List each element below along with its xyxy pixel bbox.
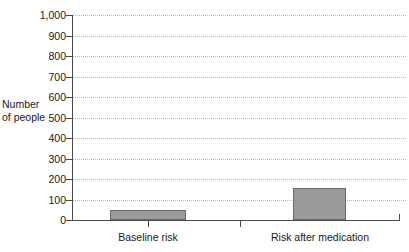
xtick-mark-baseline-risk xyxy=(148,221,149,227)
xtick-mark-axis-end xyxy=(399,214,400,221)
gridline-300 xyxy=(73,159,406,160)
bar-baseline-risk xyxy=(110,210,186,220)
xtick-mark-divider xyxy=(240,221,241,227)
ytick-label-300: 300 xyxy=(6,154,73,165)
ytick-label-1000: 1,000 xyxy=(6,10,73,21)
ytick-label-800: 800 xyxy=(6,51,73,62)
y-axis-line xyxy=(72,15,73,221)
gridline-200 xyxy=(73,179,406,180)
gridline-900 xyxy=(73,36,406,37)
ytick-label-0: 0 xyxy=(6,215,73,226)
ytick-label-200: 200 xyxy=(6,174,73,185)
gridline-500 xyxy=(73,118,406,119)
gridline-600 xyxy=(73,97,406,98)
ytick-label-400: 400 xyxy=(6,133,73,144)
bar-chart: Number of people 1,000 900 800 700 600 5… xyxy=(0,0,409,252)
plot-area: 1,000 900 800 700 600 500 400 300 200 10… xyxy=(0,0,409,252)
bar-risk-after-medication xyxy=(293,188,346,220)
gridline-400 xyxy=(73,138,406,139)
x-axis-line xyxy=(72,220,400,221)
gridline-1000 xyxy=(73,15,406,16)
ytick-label-700: 700 xyxy=(6,72,73,83)
xtick-label-baseline-risk: Baseline risk xyxy=(108,231,188,243)
gridline-800 xyxy=(73,56,406,57)
gridline-700 xyxy=(73,77,406,78)
xtick-label-risk-after-medication: Risk after medication xyxy=(252,231,388,243)
ytick-label-600: 600 xyxy=(6,92,73,103)
gridline-100 xyxy=(73,200,406,201)
ytick-label-500: 500 xyxy=(6,113,73,124)
ytick-label-900: 900 xyxy=(6,31,73,42)
ytick-label-100: 100 xyxy=(6,195,73,206)
